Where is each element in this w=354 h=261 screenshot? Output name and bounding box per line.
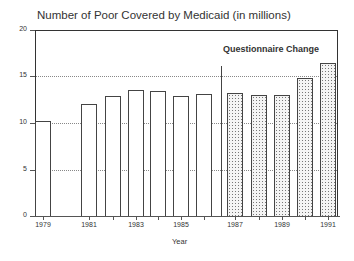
bar-1985 <box>173 96 189 216</box>
x-tick-label-1981: 1981 <box>74 221 104 228</box>
bar-1979 <box>35 121 51 216</box>
x-axis-label: Year <box>172 237 187 246</box>
bar-1991 <box>320 63 336 216</box>
x-tick-label-1985: 1985 <box>166 221 196 228</box>
bar-1988 <box>251 95 267 216</box>
bar-1983 <box>128 90 144 216</box>
bar-1989 <box>274 95 290 216</box>
x-axis-baseline <box>30 216 340 217</box>
y-tick-label-10: 10 <box>7 118 27 125</box>
x-tick-label-1989: 1989 <box>267 221 297 228</box>
bar-1984 <box>150 91 166 216</box>
bar-1990 <box>297 78 313 216</box>
x-tick-label-1979: 1979 <box>28 221 58 228</box>
grid-line-15 <box>36 76 337 77</box>
bar-1987 <box>227 93 243 216</box>
chart-title: Number of Poor Covered by Medicaid (in m… <box>37 9 291 21</box>
y-tick <box>30 76 35 77</box>
y-tick-label-15: 15 <box>7 71 27 78</box>
x-tick-label-1983: 1983 <box>121 221 151 228</box>
x-tick-label-1987: 1987 <box>220 221 250 228</box>
x-tick-label-1991: 1991 <box>313 221 343 228</box>
bar-1981 <box>81 104 97 216</box>
questionnaire-divider <box>221 66 222 216</box>
y-tick-label-0: 0 <box>7 211 27 218</box>
y-tick-label-20: 20 <box>7 25 27 32</box>
bar-1986 <box>196 94 212 216</box>
bar-1982 <box>105 96 121 216</box>
y-tick-label-5: 5 <box>7 165 27 172</box>
questionnaire-annotation: Questionnaire Change <box>223 44 319 54</box>
y-tick <box>30 30 35 31</box>
